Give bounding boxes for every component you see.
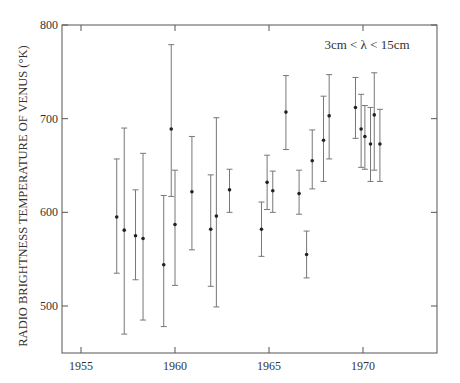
data-point bbox=[215, 214, 219, 218]
data-point bbox=[134, 234, 138, 238]
data-point bbox=[115, 215, 119, 219]
data-point bbox=[122, 228, 126, 232]
data-point bbox=[322, 138, 326, 142]
data-point bbox=[305, 253, 309, 257]
data-point bbox=[209, 227, 213, 231]
y-tick-label: 800 bbox=[40, 18, 58, 32]
data-point bbox=[297, 192, 301, 196]
error-bars bbox=[114, 45, 383, 334]
data-point bbox=[310, 159, 314, 163]
data-point bbox=[372, 113, 376, 117]
data-point bbox=[354, 106, 358, 110]
data-point bbox=[359, 127, 363, 131]
y-tick-label: 500 bbox=[40, 299, 58, 313]
data-point bbox=[141, 237, 145, 241]
y-axis-label: RADIO BRIGHTNESS TEMPERATURE OF VENUS (°… bbox=[16, 45, 30, 346]
x-tick-label: 1970 bbox=[351, 359, 375, 373]
x-tick-label: 1955 bbox=[69, 359, 93, 373]
venus-temperature-chart: 5006007008001955196019651970 3cm < λ < 1… bbox=[0, 0, 460, 383]
wavelength-annotation: 3cm < λ < 15cm bbox=[324, 37, 409, 52]
chart-container: 5006007008001955196019651970 3cm < λ < 1… bbox=[0, 0, 460, 383]
data-points bbox=[115, 106, 382, 267]
data-point bbox=[162, 263, 166, 267]
data-point bbox=[173, 223, 177, 227]
data-point bbox=[369, 142, 373, 146]
x-tick-label: 1960 bbox=[163, 359, 187, 373]
data-point bbox=[327, 114, 331, 118]
axes: 5006007008001955196019651970 bbox=[40, 18, 437, 373]
data-point bbox=[228, 188, 232, 192]
data-point bbox=[260, 227, 264, 231]
data-point bbox=[284, 110, 288, 114]
data-point bbox=[363, 135, 367, 139]
data-point bbox=[169, 127, 173, 131]
data-point bbox=[190, 190, 194, 194]
plot-frame bbox=[62, 25, 437, 353]
x-tick-label: 1965 bbox=[257, 359, 281, 373]
data-point bbox=[271, 189, 275, 193]
data-point bbox=[378, 142, 382, 146]
y-tick-label: 600 bbox=[40, 205, 58, 219]
data-point bbox=[265, 181, 269, 185]
y-tick-label: 700 bbox=[40, 112, 58, 126]
